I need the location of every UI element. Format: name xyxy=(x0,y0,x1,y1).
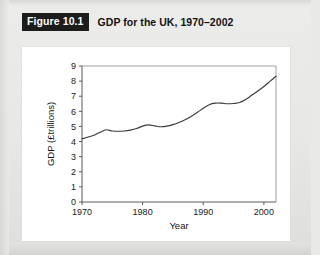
plot-frame xyxy=(82,66,276,202)
figure-panel: 0123456789 1970198019902000 GDP (£trilli… xyxy=(22,47,290,241)
x-axis-tick-labels: 1970198019902000 xyxy=(72,207,274,217)
svg-text:6: 6 xyxy=(71,107,76,117)
y-axis-title: GDP (£trillions) xyxy=(45,102,56,166)
svg-text:0: 0 xyxy=(71,197,76,207)
svg-text:1970: 1970 xyxy=(72,207,92,217)
svg-text:9: 9 xyxy=(71,61,76,71)
svg-text:2: 2 xyxy=(71,167,76,177)
x-axis-title: Year xyxy=(169,220,188,231)
y-axis-tick-labels: 0123456789 xyxy=(71,61,76,207)
figure-number-badge: Figure 10.1 xyxy=(22,13,89,31)
svg-text:4: 4 xyxy=(71,137,76,147)
svg-text:1: 1 xyxy=(71,182,76,192)
svg-text:5: 5 xyxy=(71,122,76,132)
svg-text:3: 3 xyxy=(71,152,76,162)
svg-text:1990: 1990 xyxy=(193,207,213,217)
figure-caption-row: Figure 10.1 GDP for the UK, 1970–2002 xyxy=(22,13,233,30)
chart-area: 0123456789 1970198019902000 GDP (£trilli… xyxy=(22,47,290,241)
svg-text:7: 7 xyxy=(71,91,76,101)
gdp-data-line xyxy=(82,76,276,139)
figure-caption-text: GDP for the UK, 1970–2002 xyxy=(98,16,234,28)
svg-text:8: 8 xyxy=(71,76,76,86)
svg-text:2000: 2000 xyxy=(254,207,274,217)
gdp-line-chart: 0123456789 1970198019902000 GDP (£trilli… xyxy=(22,47,290,241)
svg-text:1980: 1980 xyxy=(133,207,153,217)
